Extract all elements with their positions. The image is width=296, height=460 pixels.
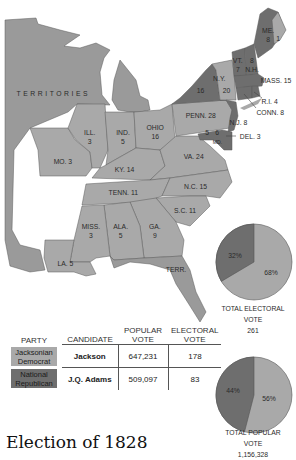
label-la: LA. 5: [57, 259, 73, 268]
table-row: Jacksonian Democrat Jackson 647,231 178: [6, 345, 221, 368]
party-jacksonian-democrat: Jacksonian Democrat: [11, 347, 57, 366]
region-michigan: [112, 60, 150, 112]
label-nj: N.J. 8: [230, 118, 248, 127]
header-popular: POPULAR VOTE: [118, 326, 168, 345]
popular-pct-adams: 44%: [226, 386, 240, 395]
label-ny: N.Y.: [213, 74, 225, 83]
label-ga: GA. 9: [149, 222, 161, 240]
label-fl-terr: TERR.: [166, 265, 186, 274]
label-me: ME. 8: [262, 26, 274, 44]
label-ky: KY. 14: [115, 165, 135, 174]
label-conn: CONN. 8: [256, 108, 284, 117]
label-miss: MISS. 3: [82, 222, 101, 240]
popular-jackson: 647,231: [118, 345, 168, 368]
electoral-caption: TOTAL ELECTORAL VOTE 261: [216, 303, 289, 336]
label-me-split: 1: [276, 34, 280, 43]
header-candidate: CANDIDATE: [62, 326, 118, 345]
region-mass: [234, 74, 264, 88]
candidate-jackson: Jackson: [62, 345, 118, 368]
header-party: PARTY: [6, 326, 62, 345]
label-ill: ILL. 3: [84, 128, 95, 146]
popular-caption: TOTAL POPULAR VOTE 1,156,328: [216, 427, 289, 460]
candidate-adams: J.Q. Adams: [62, 368, 118, 391]
header-electoral: ELECTORAL VOTE: [168, 326, 221, 345]
label-vt: VT. 7: [233, 56, 243, 74]
page-title: Election of 1828: [6, 432, 147, 452]
electoral-jackson: 178: [168, 345, 221, 368]
electoral-total: 261: [216, 325, 289, 336]
label-sc: S.C. 11: [174, 206, 196, 215]
label-md-adams: 6: [215, 128, 219, 137]
popular-pct-jackson: 56%: [262, 394, 276, 403]
popular-adams: 509,097: [118, 368, 168, 391]
label-nh: 8 N.H.: [245, 56, 259, 74]
electoral-pct-jackson: 68%: [264, 268, 278, 277]
table-row: National Republican J.Q. Adams 509,097 8…: [6, 368, 221, 391]
electoral-pct-adams: 32%: [228, 251, 242, 260]
label-nc: N.C. 15: [184, 182, 207, 191]
region-fl-terr: [110, 256, 206, 322]
electoral-caption-label: TOTAL ELECTORAL VOTE: [216, 303, 289, 325]
region-conn: [236, 86, 252, 100]
label-territories: TERRITORIES: [16, 89, 90, 98]
label-ri: R.I. 4: [261, 97, 277, 106]
electoral-adams: 83: [168, 368, 221, 391]
electoral-vote-pie: 32% 68%: [215, 223, 293, 301]
label-ny-adams: 16: [197, 86, 205, 95]
label-ny-jackson: 20: [223, 86, 231, 95]
label-va: VA. 24: [184, 152, 204, 161]
results-table: PARTY CANDIDATE POPULAR VOTE ELECTORAL V…: [6, 326, 221, 390]
label-ind: IND. 5: [116, 128, 130, 146]
region-ri: [252, 86, 260, 98]
label-mo: MO. 3: [54, 157, 73, 166]
label-tenn: TENN. 11: [109, 188, 138, 197]
party-national-republican: National Republican: [11, 369, 57, 388]
popular-vote-pie: 44% 56%: [215, 356, 293, 434]
popular-total: 1,156,328: [216, 449, 289, 460]
label-penn: PENN. 28: [186, 111, 216, 120]
label-ohio: OHIO 16: [147, 123, 164, 141]
label-md: MD.: [213, 138, 222, 147]
label-md-jackson: 5: [205, 128, 209, 137]
label-mass: MASS. 15: [261, 76, 292, 85]
label-del: DEL. 3: [240, 132, 261, 141]
label-ala: ALA. 5: [113, 222, 128, 240]
popular-caption-label: TOTAL POPULAR VOTE: [216, 427, 289, 449]
